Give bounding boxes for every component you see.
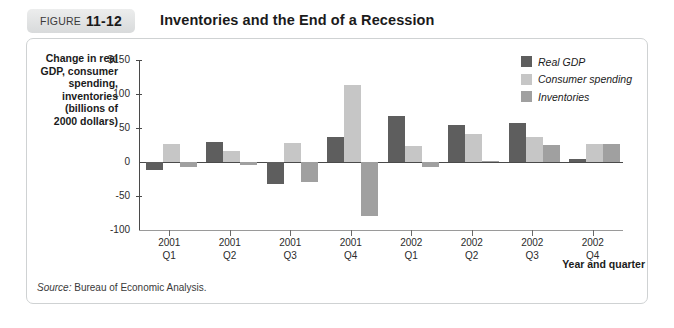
x-axis-tick xyxy=(532,230,533,236)
y-axis-caption-line: GDP, consumer xyxy=(24,65,118,78)
x-axis-tick xyxy=(593,230,594,236)
legend-item-consumer-spending: Consumer spending xyxy=(521,72,632,87)
x-axis-tick-label: 2002Q1 xyxy=(378,237,444,262)
x-axis-tick-label-line: 2001 xyxy=(318,237,384,250)
x-axis-tick xyxy=(230,230,231,236)
x-axis-tick-label-line: Q3 xyxy=(257,250,323,263)
x-axis-title: Year and quarter xyxy=(562,258,645,270)
x-axis-tick xyxy=(169,230,170,236)
legend-swatch-real-gdp xyxy=(521,56,532,67)
y-axis-tick-label: 50 xyxy=(86,122,130,133)
x-axis-tick-label-line: 2001 xyxy=(197,237,263,250)
bar-real-gdp xyxy=(206,142,223,162)
bar-consumer-spending xyxy=(586,144,603,162)
x-axis-tick-label: 2001Q2 xyxy=(197,237,263,262)
legend-label-inventories: Inventories xyxy=(538,91,589,103)
legend-swatch-inventories xyxy=(521,91,532,102)
x-axis-tick-label: 2001Q3 xyxy=(257,237,323,262)
bar-real-gdp xyxy=(388,116,405,162)
source-note: Source: Bureau of Economic Analysis. xyxy=(37,282,207,293)
bar-inventories xyxy=(482,161,499,162)
bar-real-gdp xyxy=(267,162,284,184)
bar-real-gdp xyxy=(448,125,465,162)
bar-inventories xyxy=(422,162,439,167)
legend-swatch-consumer-spending xyxy=(521,74,532,85)
y-axis-tick xyxy=(136,128,142,129)
bar-inventories xyxy=(301,162,318,182)
x-axis-tick-label-line: Q1 xyxy=(378,250,444,263)
legend-item-real-gdp: Real GDP xyxy=(521,54,632,69)
zero-line xyxy=(139,162,623,163)
bar-consumer-spending xyxy=(344,85,361,162)
x-axis-line xyxy=(139,230,623,231)
y-axis-tick-label: $150 xyxy=(86,54,130,65)
y-axis-tick xyxy=(136,94,142,95)
x-axis-tick-label-line: 2001 xyxy=(136,237,202,250)
x-axis-tick xyxy=(290,230,291,236)
bar-real-gdp xyxy=(327,137,344,162)
x-axis-tick-label-line: 2002 xyxy=(439,237,505,250)
bar-consumer-spending xyxy=(223,151,240,162)
x-axis-tick-label-line: Q2 xyxy=(197,250,263,263)
bar-real-gdp xyxy=(146,162,163,170)
y-axis-tick-label: 100 xyxy=(86,88,130,99)
source-label: Source: xyxy=(37,282,71,293)
bar-real-gdp xyxy=(509,123,526,162)
source-text: Bureau of Economic Analysis. xyxy=(71,282,206,293)
y-axis-caption-line: (billions of xyxy=(24,102,118,115)
y-axis-tick-label: -50 xyxy=(86,190,130,201)
bar-inventories xyxy=(543,145,560,162)
bar-inventories xyxy=(603,144,620,162)
x-axis-tick-label-line: 2002 xyxy=(499,237,565,250)
x-axis-tick-label: 2002Q2 xyxy=(439,237,505,262)
bar-inventories xyxy=(361,162,378,216)
x-axis-tick xyxy=(411,230,412,236)
x-axis-tick-label: 2002Q3 xyxy=(499,237,565,262)
figure-title: Inventories and the End of a Recession xyxy=(160,12,435,28)
legend-label-consumer-spending: Consumer spending xyxy=(538,73,632,85)
bar-real-gdp xyxy=(569,159,586,162)
y-axis-tick xyxy=(136,196,142,197)
figure-container: FIGURE 11-12 Inventories and the End of … xyxy=(0,0,674,328)
bar-consumer-spending xyxy=(163,144,180,162)
x-axis-tick-label: 2001Q1 xyxy=(136,237,202,262)
x-axis-tick xyxy=(472,230,473,236)
x-axis-tick-label-line: 2001 xyxy=(257,237,323,250)
bar-consumer-spending xyxy=(526,137,543,162)
y-axis-line xyxy=(139,60,140,230)
x-axis-tick xyxy=(351,230,352,236)
x-axis-tick-label-line: Q4 xyxy=(318,250,384,263)
legend-label-real-gdp: Real GDP xyxy=(538,56,585,68)
x-axis-tick-label-line: 2002 xyxy=(378,237,444,250)
figure-number: 11-12 xyxy=(86,13,122,29)
y-axis-tick-label: 0 xyxy=(86,156,130,167)
x-axis-tick-label-line: Q2 xyxy=(439,250,505,263)
bar-consumer-spending xyxy=(405,146,422,162)
x-axis-tick-label: 2001Q4 xyxy=(318,237,384,262)
bar-inventories xyxy=(180,162,197,167)
y-axis-tick xyxy=(136,60,142,61)
chart-legend: Real GDP Consumer spending Inventories xyxy=(521,54,632,107)
figure-number-tab: FIGURE 11-12 xyxy=(27,9,135,33)
bar-consumer-spending xyxy=(284,143,301,162)
x-axis-tick-label-line: Q1 xyxy=(136,250,202,263)
y-axis-tick-label: -100 xyxy=(86,224,130,235)
legend-item-inventories: Inventories xyxy=(521,89,632,104)
x-axis-tick-label-line: Q3 xyxy=(499,250,565,263)
figure-word: FIGURE xyxy=(40,15,81,27)
bar-consumer-spending xyxy=(465,134,482,162)
bar-inventories xyxy=(240,162,257,165)
x-axis-tick-label-line: 2002 xyxy=(560,237,626,250)
